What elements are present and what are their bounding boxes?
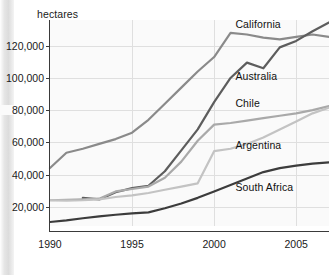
y-tick-mark	[46, 46, 50, 47]
y-tick-label: 40,000	[12, 169, 44, 181]
series-label-australia: Australia	[235, 70, 277, 82]
y-axis-unit-label: hectares	[37, 8, 78, 20]
x-tick-label: 1990	[38, 238, 61, 250]
y-tick-mark	[46, 175, 50, 176]
y-tick-mark	[46, 78, 50, 79]
y-tick-mark	[46, 207, 50, 208]
y-tick-label: 80,000	[12, 104, 44, 116]
series-label-california: California	[235, 18, 280, 30]
series-line-california	[50, 33, 329, 168]
series-lines	[50, 20, 329, 226]
chart-container: hectares 20,00040,00060,00080,000100,000…	[0, 0, 329, 275]
x-tick-label: 2005	[284, 238, 307, 250]
y-tick-mark	[46, 110, 50, 111]
y-tick-mark	[46, 142, 50, 143]
y-tick-label: 20,000	[12, 201, 44, 213]
y-tick-label: 100,000	[6, 72, 44, 84]
x-tick-label: 2000	[202, 238, 225, 250]
x-tick-label: 1995	[120, 238, 143, 250]
plot-area	[50, 20, 329, 226]
y-axis-line	[49, 20, 50, 232]
y-tick-label: 120,000	[6, 40, 44, 52]
series-label-south-africa: South Africa	[235, 181, 293, 193]
series-label-argentina: Argentina	[235, 139, 281, 151]
series-line-australia	[83, 22, 329, 199]
y-tick-label: 60,000	[12, 136, 44, 148]
series-label-chile: Chile	[235, 97, 259, 109]
x-axis-line	[49, 231, 329, 232]
